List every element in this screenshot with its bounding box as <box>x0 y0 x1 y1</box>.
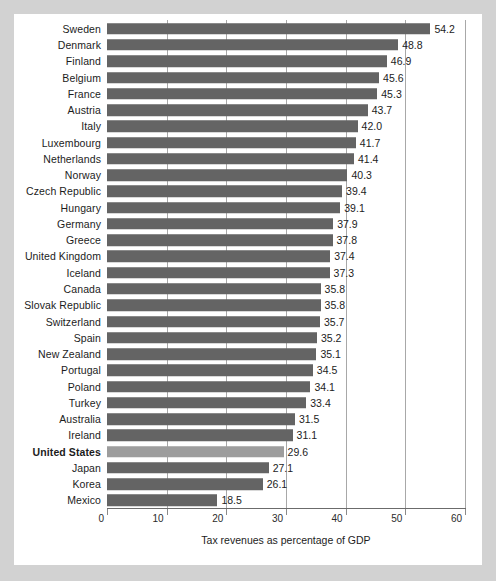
bar-row: Mexico18.5 <box>14 492 482 509</box>
category-label: Germany <box>57 218 101 230</box>
bar <box>107 104 368 116</box>
bar-value-label: 35.8 <box>321 299 345 311</box>
category-label: Switzerland <box>46 316 101 328</box>
x-axis-tick-label: 0 <box>98 513 107 524</box>
bar-value-label: 54.2 <box>430 23 454 35</box>
bar <box>107 251 330 263</box>
bar <box>107 332 317 344</box>
category-label: United States <box>33 446 101 458</box>
bar-value-label: 35.7 <box>320 316 344 328</box>
x-axis-tick-label: 50 <box>391 513 405 524</box>
category-label: Portugal <box>61 364 101 376</box>
category-label: New Zealand <box>38 348 101 360</box>
bar-row: Iceland37.3 <box>14 264 482 281</box>
bar-value-label: 35.1 <box>316 348 340 360</box>
x-axis-tick <box>405 509 406 515</box>
bar-value-label: 29.6 <box>284 446 308 458</box>
bar <box>107 365 313 377</box>
category-label: Mexico <box>67 494 101 506</box>
bar <box>107 267 330 279</box>
category-label: Turkey <box>69 397 101 409</box>
category-label: Australia <box>59 413 101 425</box>
bar <box>107 121 358 133</box>
x-axis-tick <box>465 509 466 515</box>
bar-value-label: 37.4 <box>330 250 354 262</box>
bar <box>107 72 379 84</box>
x-axis-tick <box>167 509 168 515</box>
category-label: Canada <box>64 283 101 295</box>
bar <box>107 430 293 442</box>
bar-value-label: 45.6 <box>379 72 403 84</box>
category-label: Japan <box>72 462 101 474</box>
category-label: Sweden <box>62 23 101 35</box>
category-label: Italy <box>81 120 101 132</box>
bar <box>107 348 316 360</box>
bar <box>107 218 333 230</box>
category-label: United Kingdom <box>25 250 101 262</box>
x-axis-tick-label: 30 <box>272 513 286 524</box>
bar-row: Canada35.8 <box>14 280 482 297</box>
bar-row: Denmark48.8 <box>14 36 482 53</box>
bar-value-label: 45.3 <box>377 88 401 100</box>
bar <box>107 137 356 149</box>
bar <box>107 23 430 35</box>
bar <box>107 169 347 181</box>
category-label: France <box>68 88 101 100</box>
bar-row: New Zealand35.1 <box>14 345 482 362</box>
bar-row: Slovak Republic35.8 <box>14 297 482 314</box>
bar-row: Germany37.9 <box>14 215 482 232</box>
bar-row: Spain35.2 <box>14 329 482 346</box>
category-label: Finland <box>66 55 101 67</box>
bar-row: United Kingdom37.4 <box>14 248 482 265</box>
bar-value-label: 33.4 <box>306 397 330 409</box>
bar-value-label: 39.1 <box>340 202 364 214</box>
bar-value-label: 41.4 <box>354 153 378 165</box>
bar-row: Finland46.9 <box>14 53 482 70</box>
x-axis-tick <box>286 509 287 515</box>
bar-row: Australia31.5 <box>14 410 482 427</box>
bar-value-label: 26.1 <box>263 478 287 490</box>
bar-value-label: 46.9 <box>387 55 411 67</box>
category-label: Norway <box>65 169 101 181</box>
category-label: Hungary <box>61 202 101 214</box>
bar <box>107 55 387 67</box>
bar-row: Korea26.1 <box>14 475 482 492</box>
bar-row: France45.3 <box>14 85 482 102</box>
category-label: Poland <box>68 381 101 393</box>
bar-value-label: 34.1 <box>310 381 334 393</box>
category-label: Iceland <box>66 267 101 279</box>
bar <box>107 234 333 246</box>
bar <box>107 397 306 409</box>
category-label: Czech Republic <box>26 185 101 197</box>
x-axis-tick-label: 60 <box>451 513 465 524</box>
category-label: Luxembourg <box>42 137 101 149</box>
bar-row: Portugal34.5 <box>14 362 482 379</box>
x-axis-title: Tax revenues as percentage of GDP <box>107 534 465 546</box>
x-axis-tick-label: 40 <box>332 513 346 524</box>
x-axis-tick <box>226 509 227 515</box>
category-label: Slovak Republic <box>24 299 101 311</box>
bar-row: United States29.6 <box>14 443 482 460</box>
x-axis-tick-label: 10 <box>153 513 167 524</box>
bar <box>107 202 340 214</box>
bar <box>107 446 284 458</box>
bar <box>107 283 321 295</box>
category-label: Denmark <box>58 39 101 51</box>
category-label: Netherlands <box>43 153 101 165</box>
bar-row: Italy42.0 <box>14 118 482 135</box>
bar <box>107 39 398 51</box>
bar-value-label: 39.4 <box>342 185 366 197</box>
bar-value-label: 43.7 <box>368 104 392 116</box>
bar-value-label: 37.9 <box>333 218 357 230</box>
bar <box>107 381 310 393</box>
bar-row: Luxembourg41.7 <box>14 134 482 151</box>
bar-row: Japan27.1 <box>14 459 482 476</box>
bar <box>107 495 217 507</box>
x-axis-tick <box>107 509 108 515</box>
figure-card: Tax revenues as percentage of GDP 010203… <box>14 14 482 565</box>
category-label: Austria <box>68 104 101 116</box>
bar-value-label: 41.7 <box>356 137 380 149</box>
bar <box>107 153 354 165</box>
bar-row: Hungary39.1 <box>14 199 482 216</box>
bar-chart: Tax revenues as percentage of GDP 010203… <box>14 14 482 565</box>
